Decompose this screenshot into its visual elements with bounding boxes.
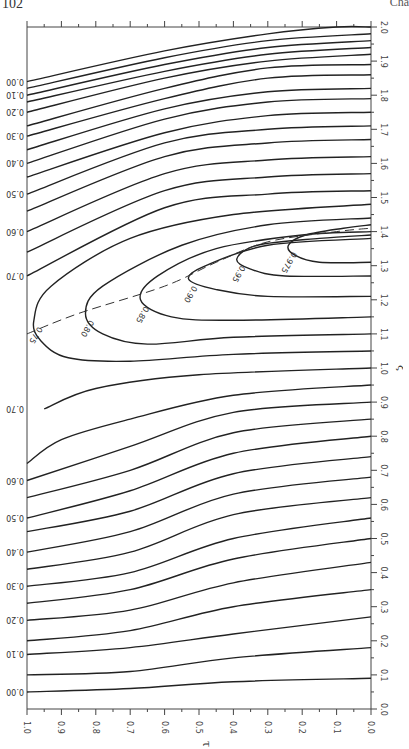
contour-lower-0_50 xyxy=(27,457,371,532)
contour-lower-0_45 xyxy=(27,477,371,552)
left-edge-label-upper: 0.20 xyxy=(6,107,24,116)
left-edge-label-lower: 0.60 xyxy=(6,476,24,485)
y-tick-label: 1.1 xyxy=(379,328,388,341)
contour-lower-0_05 xyxy=(27,678,371,692)
contour-lower-0_60 xyxy=(27,419,371,497)
contour-closed-0_975 xyxy=(288,225,371,263)
y-tick-label: 1.5 xyxy=(379,192,388,205)
y-tick-label: 0.6 xyxy=(379,498,388,511)
contour-lower-0_70 xyxy=(27,385,371,463)
y-tick-label: 1.8 xyxy=(379,89,388,102)
left-edge-label-upper: 0.10 xyxy=(6,90,24,99)
x-tick-label: 0.3 xyxy=(263,721,272,734)
x-tick-label: 0.8 xyxy=(91,721,100,734)
contour-closed-0_90 xyxy=(188,238,371,296)
contour-upper-0_40 xyxy=(27,99,371,164)
y-tick-label: 0.4 xyxy=(379,567,388,580)
y-tick-label: 0.7 xyxy=(379,464,388,477)
y-tick-label: 0.1 xyxy=(379,669,388,682)
inner-contour-label: 0.90 xyxy=(182,284,199,304)
inner-contour-label: 0.80 xyxy=(79,318,96,338)
left-edge-label-lower: 0.20 xyxy=(6,615,24,624)
left-edge-label-upper: 0.70 xyxy=(6,271,24,280)
y-tick-label: 1.6 xyxy=(379,157,388,170)
x-tick-label: 0.9 xyxy=(56,721,65,734)
axis-ticks: 1.00.90.80.70.60.50.40.30.20.10.00.00.10… xyxy=(22,21,388,734)
contour-upper-0_10 xyxy=(27,41,371,96)
y-tick-label: 1.7 xyxy=(379,123,388,136)
left-edge-label-upper: 0.40 xyxy=(6,158,24,167)
contour-lower-0_35 xyxy=(27,518,371,586)
y-tick-label: 1.0 xyxy=(379,362,388,375)
x-tick-label: 0.7 xyxy=(125,721,134,734)
contour-lower-0_40 xyxy=(27,498,371,570)
left-edge-label-upper: 0.50 xyxy=(6,189,24,198)
y-tick-label: 0.8 xyxy=(379,430,388,443)
contour-lower-0_55 xyxy=(27,436,371,518)
left-edge-label-upper: 0.00 xyxy=(6,77,24,86)
y-tick-label: 1.9 xyxy=(379,55,388,68)
y-tick-label: 0.9 xyxy=(379,396,388,409)
left-edge-label-lower: 0.10 xyxy=(6,649,24,658)
x-tick-label: 0.1 xyxy=(332,721,341,734)
y-tick-label: 1.4 xyxy=(379,226,388,239)
x-tick-label: 0.2 xyxy=(297,721,306,734)
x-tick-label: 1.0 xyxy=(22,721,31,734)
contour-lines xyxy=(27,26,371,691)
y-tick-label: 0.2 xyxy=(379,635,388,648)
contour-upper-0_00 xyxy=(27,26,371,81)
left-edge-label-upper: 0.30 xyxy=(6,131,24,140)
y-tick-label: 1.2 xyxy=(379,294,388,307)
left-edge-label-lower: 0.30 xyxy=(6,581,24,590)
y-tick-label: 2.0 xyxy=(379,21,388,34)
left-edge-label-lower: 0.00 xyxy=(6,687,24,696)
left-edge-label-lower: 0.40 xyxy=(6,547,24,556)
contour-upper-0_25 xyxy=(27,65,371,126)
left-edge-label-lower: 0.70 xyxy=(6,404,24,413)
x-axis-label: τ xyxy=(200,741,213,747)
left-edge-label-lower: 0.50 xyxy=(6,513,24,522)
y-tick-label: 1.3 xyxy=(379,260,388,273)
x-tick-label: 0.0 xyxy=(366,721,375,734)
y-axis-label: ξ xyxy=(395,365,403,371)
inner-contour-label: 0.975 xyxy=(279,250,298,274)
inner-contour-label: 0.95 xyxy=(230,264,247,284)
plot-frame xyxy=(27,27,371,709)
contour-lower-0_25 xyxy=(27,562,371,620)
y-tick-label: 0.5 xyxy=(379,533,388,546)
inner-contour-label: 0.85 xyxy=(134,305,151,325)
left-edge-label-upper: 0.60 xyxy=(6,227,24,236)
contour-lower-0_15 xyxy=(27,617,371,655)
x-tick-label: 0.4 xyxy=(228,721,237,734)
y-tick-label: 0.3 xyxy=(379,601,388,614)
contour-closed-0_75 xyxy=(33,204,371,361)
contour-closed-0_80 xyxy=(85,218,371,344)
y-tick-label: 0.0 xyxy=(379,703,388,716)
x-tick-label: 0.6 xyxy=(160,721,169,734)
x-tick-label: 0.5 xyxy=(194,721,203,734)
